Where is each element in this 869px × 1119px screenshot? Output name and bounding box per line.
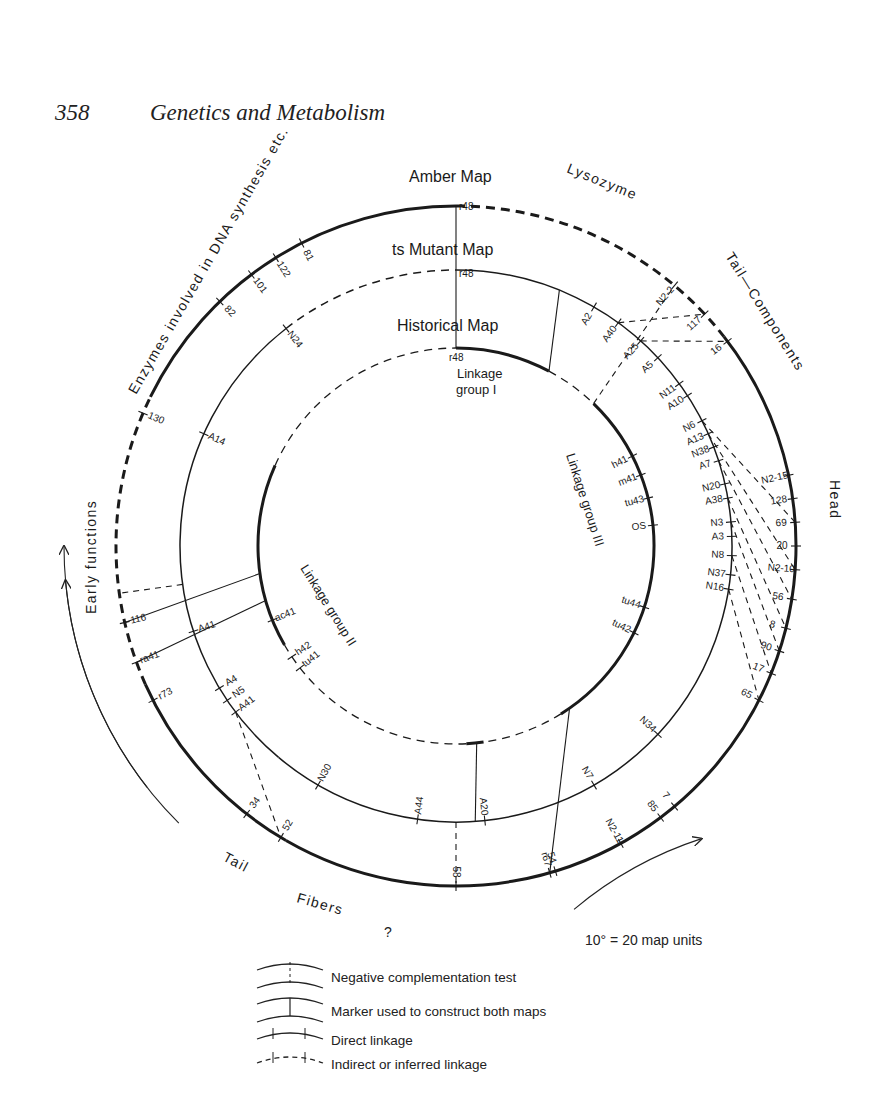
marker-label: N8 (711, 549, 725, 560)
marker-tick (675, 381, 683, 387)
marker-label: A38 (704, 493, 724, 507)
marker-label: A7 (697, 457, 712, 471)
marker-tick (788, 498, 798, 499)
marker-label: 7 (660, 790, 672, 802)
dashed-connector-icon (255, 960, 325, 994)
marker-label: A20 (478, 797, 491, 816)
marker-label: A3 (712, 530, 725, 541)
marker-label: A2 (578, 310, 594, 326)
marker-tick (417, 814, 418, 824)
marker-label-r48: r48 (459, 268, 474, 279)
legend-label: Direct linkage (331, 1033, 413, 1048)
linkage-group-1-label-2: group I (456, 382, 496, 397)
tail-fibers-left-arrow (65, 580, 147, 787)
marker-label: 128 (770, 493, 788, 506)
marker-label-r48: r48 (449, 352, 464, 363)
marker-label: OS (631, 520, 647, 532)
amber-map-title: Amber Map (409, 168, 492, 185)
ts-map-title: ts Mutant Map (392, 241, 493, 258)
marker-label: N3 (710, 516, 724, 528)
amber-ring-solid-segment (145, 684, 286, 840)
connector-N3-90 (731, 522, 779, 651)
connector-N8-17 (732, 556, 771, 674)
marker-label: A5 (639, 358, 656, 375)
marker-label: N20 (701, 479, 722, 494)
marker-label: N24 (285, 328, 305, 350)
marker-label: 56 (772, 590, 785, 603)
region-tail-components-label: Tail—Components (722, 249, 808, 374)
region-arrows (64, 546, 702, 909)
marker-label: 65 (739, 686, 754, 701)
marker-label: N2-15 (760, 469, 789, 486)
marker-label: ac41 (273, 605, 298, 623)
marker-label: 58 (451, 866, 462, 878)
connector-r67 (550, 708, 570, 873)
marker-tick (484, 816, 485, 826)
early-functions-arrow (64, 546, 179, 823)
marker-tick (316, 781, 321, 790)
marker-tick (724, 588, 734, 590)
connector-lines (119, 206, 795, 886)
legend-item-indirect-linkage: Indirect or inferred linkage (255, 1052, 546, 1076)
marker-label: 69 (775, 516, 787, 528)
marker-label: 116 (129, 611, 147, 625)
marker-ticks: N2-211716N2-151286920N2-10568901765785N2… (120, 201, 801, 891)
marker-label: A44 (412, 795, 425, 815)
marker-label: 16 (708, 341, 724, 357)
marker-tick (726, 574, 736, 575)
marker-label: 34 (247, 794, 263, 810)
marker-label: A41 (196, 618, 217, 634)
marker-tick (648, 525, 658, 526)
marker-label: r73 (156, 685, 174, 702)
linkage-group-2-label: Linkage group II (297, 562, 359, 649)
marker-label: N2-11 (604, 816, 627, 845)
marker-label: ra41 (138, 648, 161, 665)
marker-tick (223, 698, 231, 704)
tail-fibers-right-arrow (574, 839, 702, 910)
marker-label: A14 (207, 430, 228, 447)
marker-label: N16 (705, 579, 725, 593)
historical-ring-linkage-group-3 (561, 404, 654, 714)
marker-label: N34 (638, 714, 659, 735)
connector-e (549, 290, 559, 371)
amber-ring-solid-segment (286, 337, 796, 886)
marker-label: 85 (645, 798, 661, 814)
legend-label: Indirect or inferred linkage (331, 1057, 487, 1072)
marker-label: tu42 (611, 617, 634, 636)
t4-genetic-map-diagram: N2-211716N2-151286920N2-10568901765785N2… (0, 0, 869, 1119)
marker-label: N37 (707, 566, 727, 579)
marker-label: h41 (610, 453, 630, 471)
marker-label: 81 (301, 248, 316, 263)
marker-tick (787, 598, 797, 600)
marker-tick (232, 709, 240, 715)
historical-ring-c-segment (466, 742, 483, 744)
connector-C (475, 743, 476, 821)
connector-N16-65 (729, 589, 759, 700)
historical-ring-dashed (484, 714, 561, 742)
marker-label: tu43 (624, 493, 646, 508)
region-early-functions-label: Early functions (83, 500, 99, 614)
region-lysozyme-label: Lysozyme (565, 160, 640, 203)
marker-label: 122 (275, 259, 293, 279)
legend: Negative complementation test Marker use… (255, 960, 546, 1076)
marker-label: m41 (616, 470, 639, 487)
marker-tick (592, 303, 597, 312)
marker-label: 90 (759, 639, 773, 653)
historical-map-title: Historical Map (397, 317, 498, 334)
marker-label: 130 (146, 410, 166, 427)
scale-note: 10° = 20 map units (585, 932, 702, 948)
region-tail-fibers-question: ? (384, 924, 393, 940)
marker-label: 8 (768, 618, 776, 630)
marker-tick (283, 325, 289, 333)
dashed-line-ticks-icon (255, 1047, 325, 1081)
marker-label: tu44 (620, 594, 642, 611)
marker-tick (790, 522, 800, 523)
historical-ring-dashed (275, 348, 456, 465)
connector-A4-52 (236, 712, 281, 837)
linkage-group-3-label: Linkage group III (563, 451, 607, 548)
amber-ring-dashed-segment (116, 397, 150, 684)
marker-tick (726, 522, 736, 523)
marker-tick (215, 686, 224, 691)
marker-label: N2-10 (767, 561, 795, 574)
marker-tick (683, 393, 691, 398)
